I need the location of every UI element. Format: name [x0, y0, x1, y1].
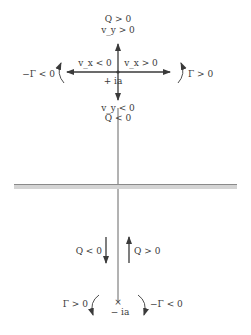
- circulation-arc-bottom-right: [138, 295, 145, 315]
- label-q-negative-bottom: Q < 0: [76, 246, 103, 256]
- circulation-arc-right: [178, 63, 183, 83]
- diagram-canvas: Q > 0 v_y > 0 v_x < 0 v_x > 0 + ia −Γ < …: [0, 0, 251, 335]
- lower-point-marker: ×: [114, 297, 122, 307]
- label-vx-positive: v_x > 0: [123, 58, 158, 69]
- label-vx-negative: v_x < 0: [77, 58, 112, 69]
- label-q-negative-top: Q < 0: [105, 113, 132, 123]
- label-q-positive-top: Q > 0: [105, 14, 132, 24]
- label-gamma-top: Γ > 0: [188, 69, 214, 79]
- label-q-positive-bottom: Q > 0: [134, 246, 161, 256]
- label-minus-ia: − ia: [111, 307, 130, 317]
- label-gamma-bottom: Γ > 0: [63, 299, 89, 309]
- circulation-arc-bottom-left: [92, 295, 99, 315]
- wall: [14, 184, 237, 189]
- label-vy-positive: v_y > 0: [100, 25, 135, 36]
- label-plus-ia: + ia: [104, 76, 123, 86]
- upper-point: [116, 70, 119, 73]
- circulation-arc-left: [59, 63, 64, 83]
- label-minus-gamma-bottom: −Γ < 0: [150, 299, 183, 309]
- label-minus-gamma-top: −Γ < 0: [22, 69, 55, 79]
